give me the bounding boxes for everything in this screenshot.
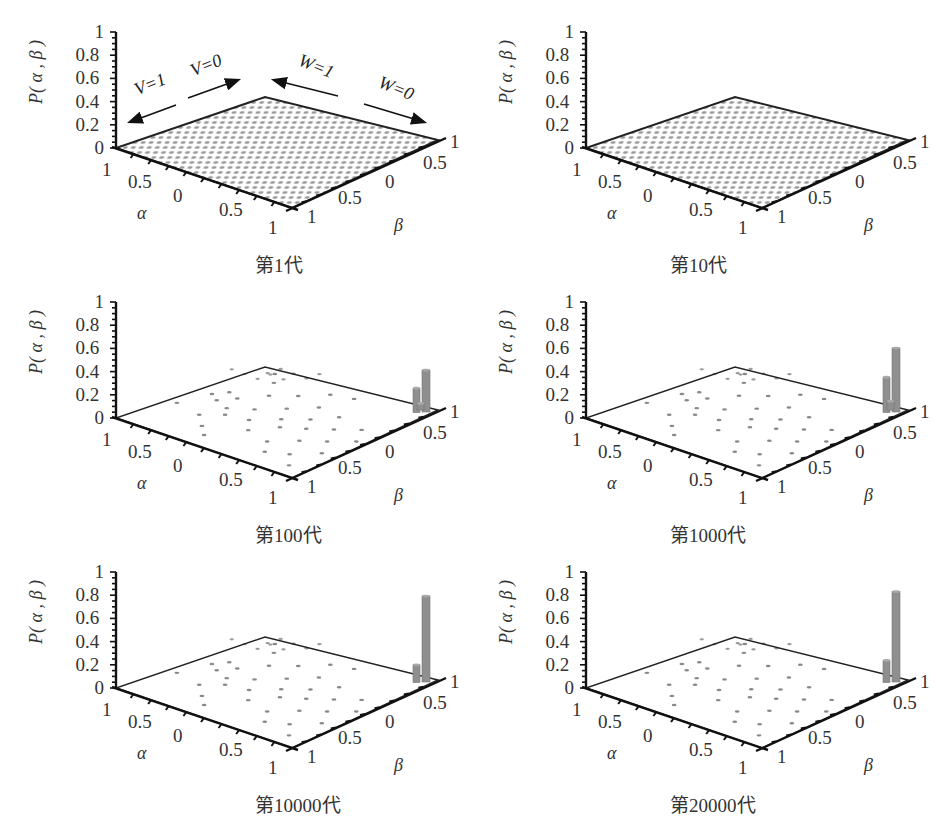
scatter-dot <box>265 440 270 442</box>
z-tick-label: 0 <box>95 408 105 427</box>
scatter-dot <box>705 667 710 669</box>
z-tick-label: 0.4 <box>76 92 100 111</box>
scatter-dot <box>209 663 214 665</box>
alpha-tick-label: 1 <box>738 758 748 777</box>
scatter-dot <box>297 439 302 441</box>
scatter-dot <box>735 440 740 442</box>
scatter-dot <box>670 695 675 697</box>
scatter-dot <box>308 418 313 420</box>
scatter-dot <box>829 699 834 701</box>
scatter-dot <box>325 710 330 712</box>
scatter-dot <box>748 426 753 428</box>
z-tick-label: 0.8 <box>546 585 570 604</box>
beta-tick-label: 1 <box>450 672 460 691</box>
scatter-dot <box>287 723 292 725</box>
z-axis-label: P( α , β ) <box>496 580 517 644</box>
scatter-dot <box>700 638 704 640</box>
scatter-dot <box>271 652 276 654</box>
beta-tick-label: 1 <box>450 402 460 421</box>
scatter-dot <box>754 407 759 409</box>
alpha-tick-label: 0.5 <box>128 172 152 191</box>
scatter-dot <box>722 408 727 410</box>
scatter-dot <box>670 425 675 427</box>
beta-tick-label: 0.5 <box>338 188 362 207</box>
beta-axis-label: β <box>864 215 873 236</box>
scatter-dot <box>209 393 214 395</box>
scatter-dot <box>807 686 812 688</box>
scatter-dot <box>352 668 357 670</box>
scatter-dot <box>786 406 791 408</box>
scatter-dot <box>735 642 739 644</box>
scatter-dot <box>824 710 829 712</box>
scatter-dot <box>246 699 251 701</box>
scatter-dot <box>778 418 783 420</box>
alpha-tick-label: 1 <box>102 160 112 179</box>
scatter-dot <box>667 684 672 686</box>
scatter-dot <box>697 391 702 393</box>
z-tick-label: 0.6 <box>76 338 100 357</box>
scatter-dot <box>829 429 834 431</box>
alpha-tick-label: 1 <box>572 160 582 179</box>
scatter-dot <box>757 453 762 455</box>
scatter-dot <box>284 407 289 409</box>
z-tick-label: 0 <box>95 138 105 157</box>
beta-tick-label: 0.5 <box>423 153 447 172</box>
scatter-dot <box>757 734 762 736</box>
scatter-dot <box>767 709 772 711</box>
panel-caption: 第10000代 <box>255 790 341 817</box>
scatter-dot <box>247 689 252 691</box>
scatter-dot <box>644 672 649 674</box>
scatter-dot <box>325 440 330 442</box>
scatter-dot <box>672 434 677 436</box>
beta-tick-label: 0.5 <box>808 188 832 207</box>
z-tick-label: 0.4 <box>546 362 570 381</box>
scatter-dot <box>200 425 205 427</box>
panel-gen20000: 00.20.40.60.81P( α , β )10.500.5110.500.… <box>470 540 937 815</box>
alpha-tick-label: 0 <box>643 456 653 475</box>
scatter-dot <box>679 663 684 665</box>
scatter-dot <box>802 698 807 700</box>
beta-tick-label: 1 <box>920 132 930 151</box>
scatter-dot <box>737 665 742 667</box>
scatter-dot <box>748 638 752 640</box>
z-axis-label: P( α , β ) <box>26 40 47 104</box>
z-tick-label: 0.6 <box>546 338 570 357</box>
alpha-axis-label: α <box>137 473 146 494</box>
alpha-tick-label: 1 <box>572 700 582 719</box>
z-tick-label: 0.8 <box>546 45 570 64</box>
scatter-dot <box>766 395 771 397</box>
probability-bar <box>883 660 890 682</box>
scatter-dot <box>247 419 252 421</box>
scatter-dot <box>684 399 689 401</box>
scatter-dot <box>255 378 259 380</box>
alpha-tick-label: 1 <box>268 218 278 237</box>
scatter-dot <box>278 696 283 698</box>
z-axis-label: P( α , β ) <box>496 310 517 374</box>
scatter-dot <box>267 665 272 667</box>
probability-bar <box>413 665 420 683</box>
scatter-dot <box>693 413 698 415</box>
beta-tick-label: 1 <box>450 132 460 151</box>
z-tick-label: 0.4 <box>76 632 100 651</box>
beta-tick-label: 0.5 <box>423 693 447 712</box>
scatter-dot <box>717 689 722 691</box>
scatter-dot <box>197 684 202 686</box>
alpha-tick-label: 1 <box>738 488 748 507</box>
beta-tick-label: 1 <box>920 402 930 421</box>
scatter-dot <box>265 710 270 712</box>
alpha-tick-label: 0 <box>173 456 183 475</box>
scatter-dot <box>281 648 285 650</box>
alpha-tick-label: 1 <box>268 758 278 777</box>
scatter-dot <box>644 402 649 404</box>
scatter-dot <box>174 402 179 404</box>
alpha-tick-label: 0.5 <box>219 470 243 489</box>
scatter-dot <box>789 722 794 724</box>
scatter-dot <box>235 667 240 669</box>
z-tick-label: 0 <box>565 138 575 157</box>
scatter-dot <box>223 413 228 415</box>
scatter-dot <box>725 378 729 380</box>
scatter-dot <box>278 638 282 640</box>
scatter-dot <box>174 672 179 674</box>
beta-axis-label: β <box>394 755 403 776</box>
scatter-dot <box>197 414 202 416</box>
